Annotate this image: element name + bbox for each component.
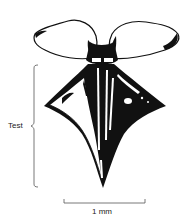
scale-bar-label: 1 mm	[92, 207, 112, 216]
test-label: Test	[8, 121, 23, 130]
collar	[86, 42, 118, 65]
test-body	[44, 64, 166, 188]
right-lobe	[109, 22, 179, 59]
test-bracket	[31, 65, 38, 187]
scale-bar	[64, 199, 145, 203]
specimen-illustration	[0, 0, 196, 221]
left-lobe	[34, 20, 97, 58]
